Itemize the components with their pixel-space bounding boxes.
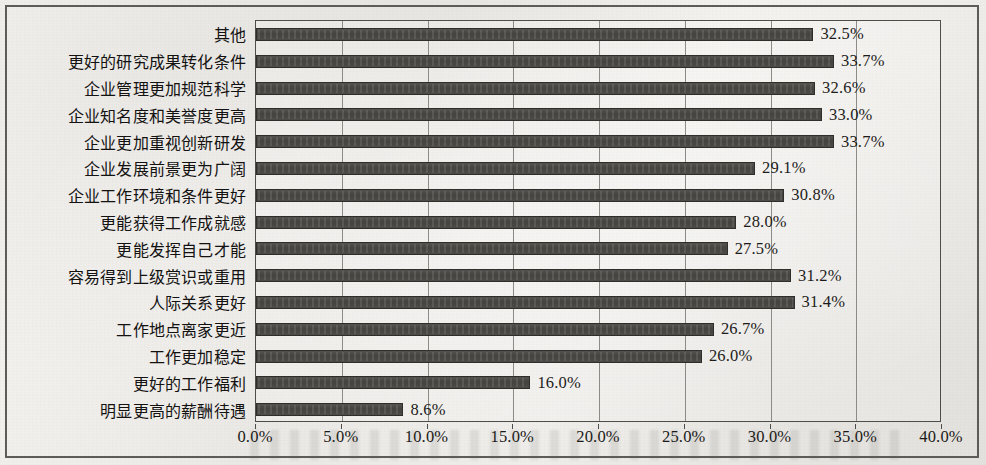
plot-area: 32.5%33.7%32.6%33.0%33.7%29.1%30.8%28.0%… (255, 20, 941, 422)
bar-value-label: 33.7% (841, 132, 885, 152)
bar (256, 350, 702, 363)
category-label: 更能发挥自己才能 (6, 237, 252, 261)
x-axis-tick-label: 5.0% (323, 427, 358, 447)
category-label: 企业知名度和美誉度更高 (6, 103, 252, 127)
category-label: 更能获得工作成就感 (6, 210, 252, 234)
bar-value-label: 31.2% (798, 266, 842, 286)
bar-value-label: 26.7% (721, 319, 765, 339)
category-axis-labels: 其他更好的研究成果转化条件企业管理更加规范科学企业知名度和美誉度更高企业更加重视… (0, 20, 252, 422)
bar-value-label: 16.0% (537, 373, 581, 393)
bar (256, 162, 755, 175)
category-label: 人际关系更好 (6, 290, 252, 314)
category-label: 更好的工作福利 (6, 371, 252, 395)
bar-row (256, 376, 940, 390)
bar-value-label: 31.4% (802, 292, 846, 312)
chart-page: 其他更好的研究成果转化条件企业管理更加规范科学企业知名度和美誉度更高企业更加重视… (0, 0, 986, 465)
bar-value-label: 8.6% (410, 400, 445, 420)
bar-value-label: 30.8% (791, 185, 835, 205)
bar-row (256, 135, 940, 149)
bar-value-label: 28.0% (743, 212, 787, 232)
value-axis-ticks: 0.0%5.0%10.0%15.0%20.0%25.0%30.0%35.0%40… (255, 424, 941, 454)
category-label: 企业管理更加规范科学 (6, 76, 252, 100)
bar-value-label: 32.6% (822, 78, 866, 98)
x-axis-tick-label: 0.0% (237, 427, 272, 447)
bar (256, 376, 530, 389)
bar-value-label: 33.7% (841, 51, 885, 71)
category-label: 更好的研究成果转化条件 (6, 49, 252, 73)
x-axis-tick-label: 40.0% (919, 427, 963, 447)
bar-value-label: 33.0% (829, 105, 873, 125)
category-label: 其他 (6, 22, 252, 46)
x-axis-tick-label: 25.0% (662, 427, 706, 447)
category-label: 企业工作环境和条件更好 (6, 183, 252, 207)
x-axis-tick-label: 20.0% (576, 427, 620, 447)
bar-value-label: 29.1% (762, 158, 806, 178)
bar (256, 296, 795, 309)
bar (256, 55, 834, 68)
bar-row (256, 161, 940, 175)
bar-value-label: 26.0% (709, 346, 753, 366)
bar (256, 403, 403, 416)
category-label: 明显更高的薪酬待遇 (6, 398, 252, 422)
x-axis-tick-label: 10.0% (405, 427, 449, 447)
bar-row (256, 54, 940, 68)
bar (256, 269, 791, 282)
bar (256, 108, 822, 121)
bar-row (256, 215, 940, 229)
bar (256, 242, 728, 255)
bar-value-label: 27.5% (735, 239, 779, 259)
category-label: 工作更加稳定 (6, 344, 252, 368)
x-axis-tick-label: 30.0% (748, 427, 792, 447)
category-label: 容易得到上级赏识或重用 (6, 264, 252, 288)
x-axis-tick-label: 15.0% (490, 427, 534, 447)
bar-row (256, 322, 940, 336)
bar-value-label: 32.5% (820, 24, 864, 44)
bar-row (256, 242, 940, 256)
bar (256, 82, 815, 95)
x-axis-tick-label: 35.0% (833, 427, 877, 447)
category-label: 企业发展前景更为广阔 (6, 156, 252, 180)
bar (256, 216, 736, 229)
bar-row (256, 188, 940, 202)
bar (256, 135, 834, 148)
category-label: 企业更加重视创新研发 (6, 130, 252, 154)
bar (256, 323, 714, 336)
horizontal-bar-chart: 其他更好的研究成果转化条件企业管理更加规范科学企业知名度和美誉度更高企业更加重视… (0, 0, 986, 465)
bar (256, 28, 813, 41)
bar-row (256, 349, 940, 363)
bar-row (256, 403, 940, 417)
category-label: 工作地点离家更近 (6, 317, 252, 341)
bar (256, 189, 784, 202)
